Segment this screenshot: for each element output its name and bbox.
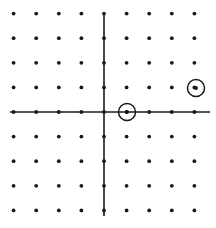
lattice-point [12,12,16,16]
lattice-point [57,135,61,139]
lattice-point [12,61,16,65]
lattice-point [12,135,16,139]
lattice-point [147,159,151,163]
lattice-point [57,86,61,90]
lattice-point [125,209,129,213]
lattice-point [34,184,38,188]
lattice-point [34,86,38,90]
lattice-diagram [0,0,216,228]
lattice-point [170,184,174,188]
lattice-point [125,36,129,40]
lattice-point [80,184,84,188]
lattice-point [170,209,174,213]
lattice-point [170,86,174,90]
axes-group [10,13,210,216]
circled-point-4-1-center-dot [194,86,198,90]
lattice-point [80,61,84,65]
lattice-point [170,135,174,139]
lattice-point [80,86,84,90]
lattice-point [57,61,61,65]
lattice-point [125,12,129,16]
lattice-point [170,36,174,40]
lattice-point [147,209,151,213]
lattice-point [80,209,84,213]
lattice-point [147,36,151,40]
lattice-point [12,209,16,213]
lattice-point [193,36,197,40]
lattice-point [147,86,151,90]
lattice-point [193,12,197,16]
lattice-point [34,61,38,65]
lattice-point [170,159,174,163]
lattice-point [193,184,197,188]
lattice-point [147,12,151,16]
lattice-point [34,12,38,16]
lattice-point [34,135,38,139]
lattice-point [57,36,61,40]
lattice-point [147,135,151,139]
lattice-point [12,86,16,90]
lattice-point [57,184,61,188]
lattice-point [125,86,129,90]
lattice-point [125,135,129,139]
lattice-point [80,135,84,139]
lattice-svg [0,0,216,228]
lattice-point [57,209,61,213]
lattice-point [170,61,174,65]
lattice-point [12,184,16,188]
lattice-point [80,36,84,40]
lattice-point [193,135,197,139]
lattice-point [34,209,38,213]
circled-point-1-0-center-dot [125,110,129,114]
lattice-point [193,61,197,65]
lattice-point [193,209,197,213]
lattice-point [57,12,61,16]
lattice-point [57,159,61,163]
lattice-point [34,159,38,163]
lattice-point [125,159,129,163]
lattice-point [12,36,16,40]
lattice-point [80,12,84,16]
lattice-point [147,184,151,188]
lattice-point [193,159,197,163]
highlight-circles-group [119,80,205,121]
lattice-point [125,61,129,65]
lattice-point [170,12,174,16]
lattice-point [80,159,84,163]
lattice-point [12,159,16,163]
lattice-point [125,184,129,188]
lattice-point [147,61,151,65]
lattice-point [34,36,38,40]
